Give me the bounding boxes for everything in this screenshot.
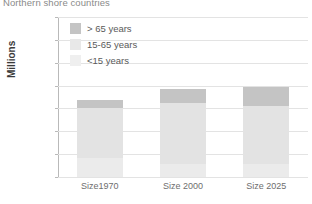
bar-segment[interactable] bbox=[77, 100, 123, 107]
chart-legend: > 65 years15-65 years<15 years bbox=[70, 22, 137, 70]
y-tick-mark bbox=[55, 131, 58, 132]
y-tick-mark bbox=[55, 177, 58, 178]
legend-swatch-icon bbox=[70, 23, 81, 34]
legend-swatch-icon bbox=[70, 55, 81, 66]
legend-item[interactable]: <15 years bbox=[70, 54, 137, 67]
legend-label: <15 years bbox=[87, 55, 129, 66]
bar-stack[interactable] bbox=[160, 89, 206, 177]
x-tick-label: Size 2025 bbox=[216, 181, 312, 191]
gridline bbox=[58, 17, 308, 18]
legend-swatch-icon bbox=[70, 39, 81, 50]
y-axis-title: Millions bbox=[6, 41, 17, 78]
y-tick-mark bbox=[55, 108, 58, 109]
plot-area: 050100150200250300350 Size1970Size 2000S… bbox=[58, 17, 308, 178]
legend-label: > 65 years bbox=[87, 23, 132, 34]
bar-segment[interactable] bbox=[243, 106, 289, 164]
bar-stack[interactable] bbox=[243, 87, 289, 178]
bar-segment[interactable] bbox=[243, 164, 289, 177]
bar-segment[interactable] bbox=[160, 103, 206, 164]
y-tick-mark bbox=[55, 154, 58, 155]
gridline bbox=[58, 177, 308, 178]
legend-item[interactable]: > 65 years bbox=[70, 22, 137, 35]
bar-segment[interactable] bbox=[243, 87, 289, 107]
y-tick-mark bbox=[55, 40, 58, 41]
y-tick-mark bbox=[55, 63, 58, 64]
bar-segment[interactable] bbox=[77, 108, 123, 158]
y-tick-mark bbox=[55, 86, 58, 87]
legend-label: 15-65 years bbox=[87, 39, 137, 50]
legend-item[interactable]: 15-65 years bbox=[70, 38, 137, 51]
bar-segment[interactable] bbox=[77, 158, 123, 177]
bar-segment[interactable] bbox=[160, 89, 206, 103]
chart-title: Northern shore countries bbox=[3, 0, 110, 8]
bar-stack[interactable] bbox=[77, 100, 123, 177]
y-tick-mark bbox=[55, 17, 58, 18]
bar-segment[interactable] bbox=[160, 164, 206, 177]
